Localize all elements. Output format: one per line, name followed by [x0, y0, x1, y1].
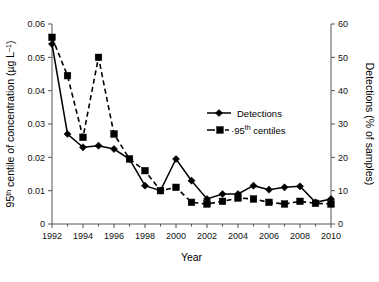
legend-label-detections: Detections	[237, 108, 282, 119]
data-point-marker	[266, 199, 273, 206]
y2-tick-label: 0	[338, 219, 343, 229]
data-point-marker	[173, 184, 180, 191]
data-point-marker	[235, 195, 242, 202]
y2-axis-title: Detections (% of samples)	[364, 63, 376, 186]
x-tick-label: 1994	[73, 231, 93, 241]
data-point-marker	[265, 186, 272, 193]
data-point-marker	[111, 131, 118, 138]
data-point-marker	[215, 109, 222, 116]
data-point-marker	[188, 199, 195, 206]
data-point-marker	[312, 200, 319, 207]
y-tick-label: 0.06	[27, 19, 45, 29]
y2-tick-label: 60	[338, 19, 348, 29]
x-axis-title: Year	[181, 251, 203, 263]
data-point-marker	[219, 198, 226, 205]
data-point-marker	[157, 187, 164, 194]
y-tick-label: 0.02	[27, 153, 45, 163]
y2-tick-label: 30	[338, 119, 348, 129]
data-point-marker	[219, 190, 226, 197]
y-tick-label: 0.03	[27, 119, 45, 129]
x-tick-label: 2006	[259, 231, 279, 241]
data-point-marker	[64, 72, 71, 79]
x-tick-label: 1992	[42, 231, 62, 241]
x-tick-label: 1998	[135, 231, 155, 241]
data-point-marker	[80, 134, 87, 141]
data-point-marker	[141, 182, 148, 189]
data-point-marker	[328, 201, 335, 208]
data-point-marker	[95, 54, 102, 61]
data-point-marker	[142, 167, 149, 174]
y-tick-label: 0.04	[27, 86, 45, 96]
data-point-marker	[281, 184, 288, 191]
legend-label-centiles: ·95th centiles	[231, 124, 286, 135]
y2-tick-label: 10	[338, 186, 348, 196]
data-point-marker	[250, 182, 257, 189]
y-tick-label: 0.05	[27, 53, 45, 63]
series-1	[48, 40, 334, 206]
data-point-marker	[126, 156, 133, 163]
y2-tick-label: 40	[338, 86, 348, 96]
y2-tick-label: 50	[338, 53, 348, 63]
chart-figure: 00.010.020.030.040.050.06010203040506019…	[0, 0, 379, 282]
data-point-marker	[281, 201, 288, 208]
chart-legend: Detections·95th centiles	[207, 108, 286, 136]
y-tick-label: 0	[40, 219, 45, 229]
data-point-marker	[217, 127, 224, 134]
chart-svg: 00.010.020.030.040.050.06010203040506019…	[0, 0, 379, 282]
x-axis: 1992199419961998200020022004200620082010	[42, 224, 341, 241]
data-point-marker	[49, 34, 56, 41]
x-tick-label: 2008	[290, 231, 310, 241]
y-axis-left: 00.010.020.030.040.050.06	[27, 19, 52, 229]
data-point-marker	[297, 198, 304, 205]
y-tick-label: 0.01	[27, 186, 45, 196]
x-tick-label: 2004	[228, 231, 248, 241]
data-point-marker	[204, 201, 211, 208]
x-tick-label: 2010	[321, 231, 341, 241]
x-tick-label: 1996	[104, 231, 124, 241]
data-point-marker	[110, 145, 117, 152]
data-point-marker	[250, 196, 257, 203]
x-tick-label: 2002	[197, 231, 217, 241]
x-tick-label: 2000	[166, 231, 186, 241]
data-point-marker	[95, 142, 102, 149]
y-axis-title: 95th centile of concentration (µg L–1)	[4, 41, 16, 208]
y2-tick-label: 20	[338, 153, 348, 163]
